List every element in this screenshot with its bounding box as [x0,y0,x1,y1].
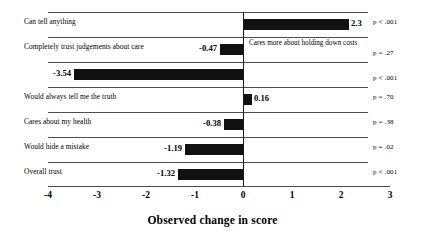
x-tick-label: 0 [223,190,263,200]
bar-value-label: 0.16 [254,92,269,104]
bar-value-label: -0.38 [164,117,221,129]
bar-value-label: -3.54 [14,67,71,79]
row-label: Would always tell me the truth [24,92,116,102]
bar-value-label: -1.32 [118,167,175,179]
x-axis-title: Observed change in score [0,214,425,226]
x-tick-label: -2 [126,190,166,200]
x-tick-label: 3 [370,190,410,200]
chart-row: -3.54 p < .001 [0,62,425,87]
p-value-label: p = .27 [373,49,394,57]
forest-bar-chart: Can tell anything 2.3 p < .001 Completel… [0,0,425,242]
bar-negative [185,144,243,155]
bar-negative [178,169,243,180]
bar-value-label: -1.19 [125,142,182,154]
bar-negative [224,119,243,130]
row-label: Overall trust [24,167,62,177]
bar-positive [244,94,252,105]
row-label: Would hide a mistake [24,142,89,152]
bar-value-label: -0.47 [160,42,217,54]
chart-row: Would hide a mistake -1.19 p = .02 [0,137,425,162]
zero-annotation: Cares more about holding down costs [249,39,367,49]
row-label: Completely trust judgements about care [24,42,144,52]
x-tick-label: 1 [272,190,312,200]
chart-row: Cares about my health -0.38 p = .38 [0,112,425,137]
p-value-label: p < .001 [373,18,397,26]
x-tick-label: -1 [175,190,215,200]
x-tick-label: 2 [321,190,361,200]
bar-positive [244,19,349,30]
p-value-label: p = .70 [373,93,394,101]
x-tick-label: -3 [77,190,117,200]
chart-row: Overall trust -1.32 p < .001 [0,162,425,187]
bar-negative [220,44,243,55]
chart-row: Completely trust judgements about care -… [0,37,425,62]
p-value-label: p = .02 [373,143,394,151]
p-value-label: p = .38 [373,118,394,126]
chart-row: Would always tell me the truth 0.16 p = … [0,87,425,112]
p-value-label: p < .001 [373,74,397,82]
bar-value-label: 2.3 [351,17,362,29]
p-value-label: p < .001 [373,168,397,176]
chart-row: Can tell anything 2.3 p < .001 [0,12,425,37]
row-label: Cares about my health [24,117,91,127]
x-axis-line [48,186,390,187]
bar-negative [74,69,243,80]
x-tick-label: -4 [28,190,68,200]
row-label: Can tell anything [24,17,76,27]
